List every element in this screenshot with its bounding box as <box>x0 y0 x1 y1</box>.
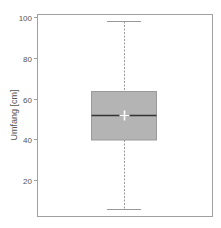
y-tick-40: 40 <box>23 136 32 145</box>
box-plot: 100 80 60 40 20 Umfang [cm] <box>0 0 221 228</box>
y-tick-80: 80 <box>23 55 32 64</box>
y-tick-20: 20 <box>23 177 32 186</box>
y-tick-labels: 100 80 60 40 20 <box>19 14 33 186</box>
y-tick-100: 100 <box>19 14 33 23</box>
y-tick-60: 60 <box>23 96 32 105</box>
y-axis-label: Umfang [cm] <box>9 89 19 140</box>
y-axis <box>34 18 38 181</box>
